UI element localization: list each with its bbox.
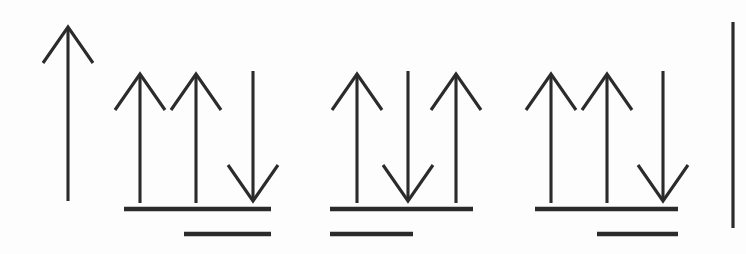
up-up-down-group [115,71,278,234]
figure-canvas [0,0,746,254]
arrow-up-2 [431,74,481,203]
spin-diagram-svg [0,0,746,254]
arrow-down-1 [228,71,278,201]
arrow-up-2 [582,74,632,203]
up-down-up-group [330,71,481,234]
arrow-down-1 [638,71,688,201]
arrow-up-1 [43,27,93,201]
arrow-up-1 [332,74,382,203]
arrow-up-2 [171,74,221,203]
arrow-up-1 [526,74,576,203]
up-up-down-group [526,71,688,234]
arrow-down-1 [383,71,433,201]
single-up-arrow [43,27,93,201]
arrow-up-1 [115,74,165,203]
groups-layer [43,27,688,234]
